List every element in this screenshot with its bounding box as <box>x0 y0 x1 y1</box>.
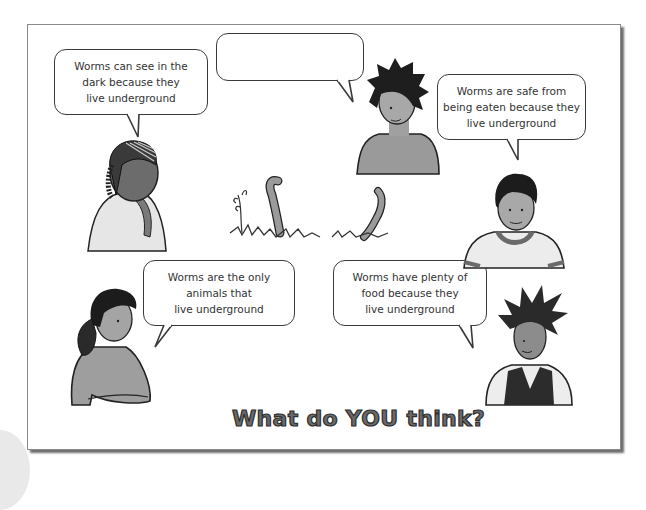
bubble-line: live underground <box>438 115 585 131</box>
bubble-line: Worms are safe from <box>438 83 585 99</box>
bubble-line: Worms can see in the <box>55 58 207 74</box>
speech-bubble-only: Worms are the only animals that live und… <box>143 260 295 326</box>
bubble-line: live underground <box>55 90 207 106</box>
worms-illustration <box>228 175 398 245</box>
character-boy-ringer-tee <box>460 168 570 273</box>
poster-title: What do YOU think? <box>232 406 485 431</box>
speech-bubble-safe: Worms are safe from being eaten because … <box>437 74 586 140</box>
character-girl-braids <box>82 135 172 255</box>
character-teen-waistcoat <box>482 285 577 410</box>
bubble-line: Worms are the only <box>144 269 294 285</box>
speech-bubble-tail <box>505 138 525 162</box>
speech-bubble-dark: Worms can see in the dark because they l… <box>54 49 208 115</box>
bubble-line: food because they <box>334 285 486 301</box>
bubble-line: live underground <box>334 301 486 317</box>
speech-bubble-blank[interactable] <box>216 33 364 81</box>
bubble-line: live underground <box>144 301 294 317</box>
bubble-line: dark because they <box>55 74 207 90</box>
bubble-line: animals that <box>144 285 294 301</box>
character-girl-ponytail <box>68 285 163 410</box>
speech-bubble-tail <box>457 324 479 350</box>
character-boy-spiky-hair <box>355 58 445 178</box>
page-curl-shadow <box>0 430 30 510</box>
bubble-line: being eaten because they <box>438 99 585 115</box>
